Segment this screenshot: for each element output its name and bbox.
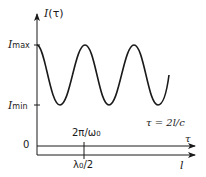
half-wavelength-label-suffix: /2 bbox=[83, 159, 93, 170]
half-wavelength-label: λ0/2 bbox=[73, 160, 93, 170]
interference-diagram bbox=[0, 0, 206, 177]
y-axis-label: I(τ) bbox=[44, 8, 64, 19]
period-label-sub: 0 bbox=[96, 130, 100, 138]
intensity-curve bbox=[37, 45, 169, 105]
relation-label: τ = 2l/c bbox=[146, 118, 185, 128]
zero-label: 0 bbox=[23, 140, 29, 150]
imin-label-sub: min bbox=[12, 102, 27, 111]
imax-label-sub: max bbox=[12, 41, 29, 50]
tau-axis-label: τ bbox=[185, 134, 191, 144]
imax-label: Imax bbox=[8, 39, 30, 50]
period-label-main: 2π/ω bbox=[72, 127, 96, 138]
y-axis-label-arg: (τ) bbox=[48, 7, 63, 20]
period-label: 2π/ω0 bbox=[72, 128, 101, 138]
l-axis-label: l bbox=[180, 160, 184, 171]
imin-label: Imin bbox=[8, 100, 27, 111]
